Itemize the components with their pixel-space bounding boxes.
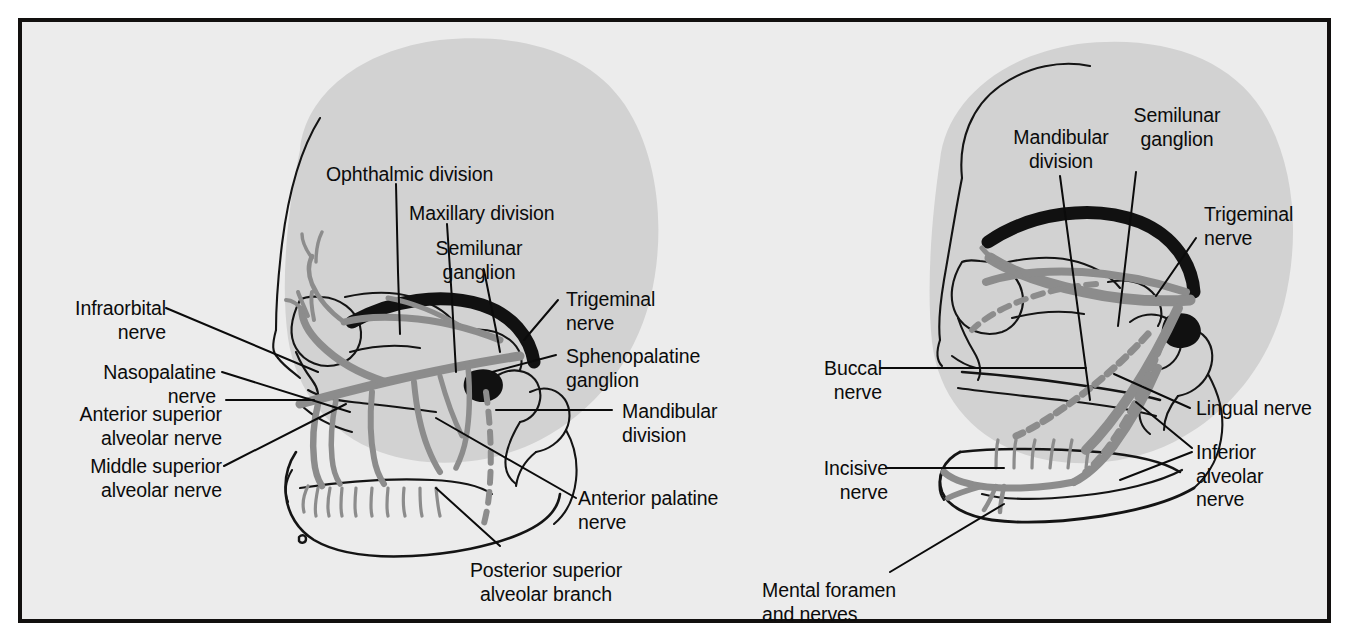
skull-illustration-plate — [0, 0, 1351, 643]
label-inferior-alveolar-nerve: Inferior alveolar nerve — [1196, 441, 1264, 512]
label-infraorbital-nerve: Infraorbital nerve — [44, 297, 166, 344]
leader-mental-foramen — [890, 504, 1004, 572]
label-semilunar-ganglion-right: Semilunar ganglion — [1118, 104, 1236, 151]
inferior-alveolar-canal-right — [944, 472, 1074, 488]
label-trigeminal-nerve-left: Trigeminal nerve — [566, 288, 655, 335]
mental-foramen-mark-left — [299, 535, 306, 542]
label-mental-foramen-and-nerves: Mental foramen and nerves — [762, 579, 896, 626]
incisive-nerve-right — [948, 486, 982, 498]
label-middle-superior-alveolar-nerve: Middle superior alveolar nerve — [26, 455, 222, 502]
anatomy-figure: Ophthalmic division Maxillary division S… — [0, 0, 1351, 643]
label-ophthalmic-division: Ophthalmic division — [326, 163, 493, 187]
label-sphenopalatine-ganglion: Sphenopalatine ganglion — [566, 345, 700, 392]
label-maxillary-division: Maxillary division — [409, 202, 555, 226]
label-mandibular-division-right: Mandibular division — [994, 126, 1128, 173]
label-posterior-superior-alveolar-branch: Posterior superior alveolar branch — [438, 559, 654, 606]
label-buccal-nerve: Buccal nerve — [792, 357, 882, 404]
label-nasopalatine-nerve: Nasopalatine nerve — [34, 361, 216, 408]
leader-mid-sup-alveolar — [224, 404, 346, 466]
label-semilunar-ganglion-left: Semilunar ganglion — [415, 237, 543, 284]
label-anterior-superior-alveolar-nerve: Anterior superior alveolar nerve — [18, 403, 222, 450]
label-incisive-nerve: Incisive nerve — [792, 457, 888, 504]
label-lingual-nerve: Lingual nerve — [1196, 397, 1312, 421]
ramus-post-left — [554, 430, 577, 524]
label-trigeminal-nerve-right: Trigeminal nerve — [1204, 203, 1293, 250]
label-anterior-palatine-nerve: Anterior palatine nerve — [578, 487, 718, 534]
label-mandibular-division-left: Mandibular division — [622, 400, 717, 447]
